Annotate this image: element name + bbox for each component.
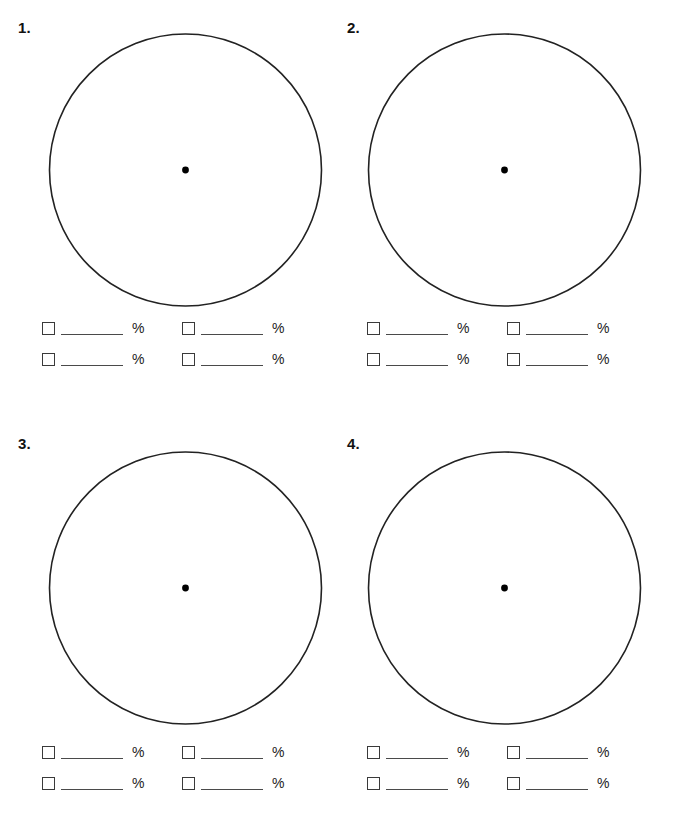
percent-symbol: % — [457, 776, 469, 790]
legend-color-checkbox[interactable] — [42, 353, 55, 366]
answer-blank-line[interactable] — [386, 321, 448, 335]
answer-cell[interactable]: % — [42, 318, 144, 338]
percent-symbol: % — [132, 776, 144, 790]
answer-cell[interactable]: % — [42, 742, 144, 762]
percent-symbol: % — [597, 776, 609, 790]
problem-number-2: 2. — [347, 20, 360, 35]
answer-cell[interactable]: % — [367, 349, 469, 369]
answer-blank-line[interactable] — [386, 745, 448, 759]
answer-row: % % — [337, 773, 674, 804]
answer-cell[interactable]: % — [507, 742, 609, 762]
percent-symbol: % — [272, 321, 284, 335]
answer-cell[interactable]: % — [182, 773, 284, 793]
legend-color-checkbox[interactable] — [507, 353, 520, 366]
percent-symbol: % — [597, 352, 609, 366]
answer-grid-3: % % % % — [0, 742, 337, 804]
legend-color-checkbox[interactable] — [367, 777, 380, 790]
answer-blank-line[interactable] — [386, 352, 448, 366]
answer-blank-line[interactable] — [61, 745, 123, 759]
circle-graph-1[interactable] — [48, 26, 323, 314]
answer-grid-4: % % % % — [337, 742, 674, 804]
answer-cell[interactable]: % — [367, 318, 469, 338]
legend-color-checkbox[interactable] — [182, 777, 195, 790]
answer-row: % % — [0, 318, 337, 349]
answer-blank-line[interactable] — [526, 745, 588, 759]
percent-symbol: % — [132, 745, 144, 759]
percent-symbol: % — [272, 745, 284, 759]
legend-color-checkbox[interactable] — [182, 322, 195, 335]
problem-number-3: 3. — [18, 436, 31, 451]
percent-symbol: % — [457, 745, 469, 759]
answer-blank-line[interactable] — [61, 352, 123, 366]
problem-2: 2. % % — [337, 0, 674, 417]
legend-color-checkbox[interactable] — [507, 322, 520, 335]
answer-grid-2: % % % % — [337, 318, 674, 380]
circle-graph-3[interactable] — [48, 444, 323, 732]
problem-number-4: 4. — [347, 436, 360, 451]
circle-outline-svg-1 — [48, 26, 323, 314]
percent-symbol: % — [272, 776, 284, 790]
answer-row: % % — [337, 318, 674, 349]
circle-graph-2[interactable] — [367, 26, 642, 314]
circle-center-dot-1 — [182, 167, 189, 174]
legend-color-checkbox[interactable] — [42, 777, 55, 790]
answer-cell[interactable]: % — [367, 773, 469, 793]
answer-row: % % — [0, 349, 337, 380]
answer-cell[interactable]: % — [507, 773, 609, 793]
answer-blank-line[interactable] — [201, 776, 263, 790]
answer-cell[interactable]: % — [507, 318, 609, 338]
answer-blank-line[interactable] — [526, 321, 588, 335]
answer-cell[interactable]: % — [367, 742, 469, 762]
answer-blank-line[interactable] — [201, 745, 263, 759]
answer-cell[interactable]: % — [182, 349, 284, 369]
legend-color-checkbox[interactable] — [182, 746, 195, 759]
percent-symbol: % — [457, 352, 469, 366]
answer-blank-line[interactable] — [61, 321, 123, 335]
legend-color-checkbox[interactable] — [367, 322, 380, 335]
legend-color-checkbox[interactable] — [42, 746, 55, 759]
percent-symbol: % — [597, 745, 609, 759]
circle-center-dot-2 — [501, 167, 508, 174]
answer-cell[interactable]: % — [182, 742, 284, 762]
legend-color-checkbox[interactable] — [367, 353, 380, 366]
answer-blank-line[interactable] — [526, 776, 588, 790]
answer-cell[interactable]: % — [42, 773, 144, 793]
legend-color-checkbox[interactable] — [507, 746, 520, 759]
answer-row: % % — [0, 742, 337, 773]
answer-blank-line[interactable] — [201, 352, 263, 366]
circle-outline-svg-3 — [48, 444, 323, 732]
percent-symbol: % — [132, 321, 144, 335]
problem-4: 4. % % — [337, 418, 674, 835]
problem-number-1: 1. — [18, 20, 31, 35]
problem-3: 3. % % — [0, 418, 337, 835]
answer-blank-line[interactable] — [201, 321, 263, 335]
worksheet-page: 1. % % — [0, 0, 674, 835]
answer-blank-line[interactable] — [61, 776, 123, 790]
answer-blank-line[interactable] — [386, 776, 448, 790]
circle-outline-svg-4 — [367, 444, 642, 732]
answer-row: % % — [337, 742, 674, 773]
legend-color-checkbox[interactable] — [182, 353, 195, 366]
circle-graph-4[interactable] — [367, 444, 642, 732]
answer-row: % % — [337, 349, 674, 380]
answer-blank-line[interactable] — [526, 352, 588, 366]
percent-symbol: % — [457, 321, 469, 335]
percent-symbol: % — [597, 321, 609, 335]
circle-outline-svg-2 — [367, 26, 642, 314]
answer-grid-1: % % % % — [0, 318, 337, 380]
legend-color-checkbox[interactable] — [507, 777, 520, 790]
legend-color-checkbox[interactable] — [42, 322, 55, 335]
percent-symbol: % — [272, 352, 284, 366]
circle-center-dot-3 — [182, 585, 189, 592]
legend-color-checkbox[interactable] — [367, 746, 380, 759]
answer-row: % % — [0, 773, 337, 804]
circle-center-dot-4 — [501, 585, 508, 592]
answer-cell[interactable]: % — [507, 349, 609, 369]
percent-symbol: % — [132, 352, 144, 366]
problem-1: 1. % % — [0, 0, 337, 417]
answer-cell[interactable]: % — [182, 318, 284, 338]
answer-cell[interactable]: % — [42, 349, 144, 369]
